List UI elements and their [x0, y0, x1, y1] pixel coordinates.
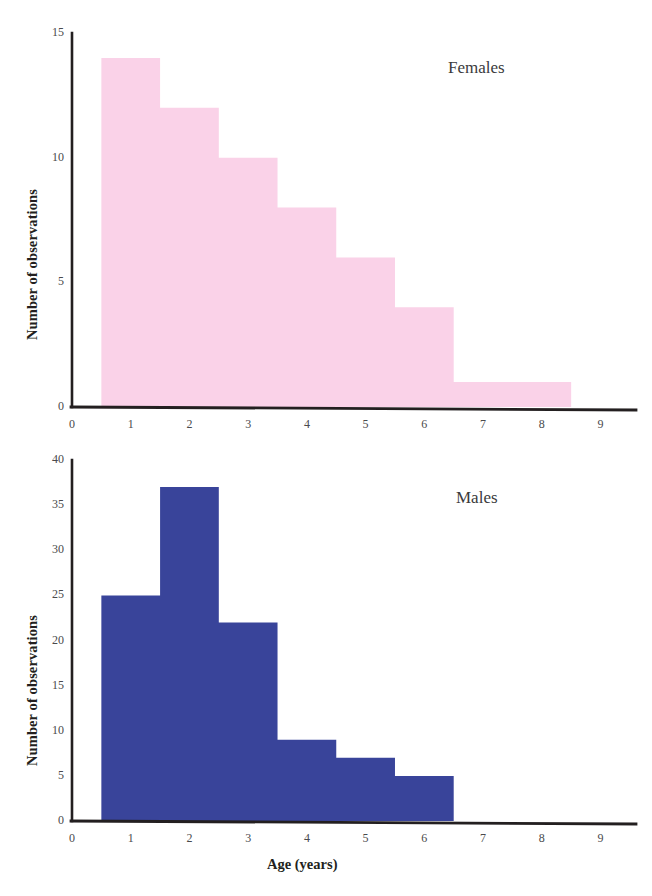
x-axis-line [71, 407, 636, 410]
y-tick-label: 20 [26, 633, 64, 648]
males-histogram-plot [0, 448, 652, 896]
x-tick-label: 7 [468, 417, 498, 432]
histogram-bars [101, 58, 571, 407]
y-tick-label: 35 [26, 497, 64, 512]
chart-panel-males: Number of observations Males Age (years)… [0, 448, 652, 896]
y-tick-label: 15 [26, 25, 64, 40]
y-tick-label: 15 [26, 678, 64, 693]
x-tick-label: 8 [527, 831, 557, 846]
x-tick-label: 0 [57, 417, 87, 432]
x-tick-label: 1 [116, 831, 146, 846]
x-tick-label: 9 [586, 831, 616, 846]
y-tick-label: 30 [26, 542, 64, 557]
females-histogram-plot [0, 0, 652, 448]
panel-annotation-males: Males [456, 488, 498, 508]
x-tick-label: 5 [351, 831, 381, 846]
histogram-bars [101, 487, 453, 821]
x-tick-label: 6 [409, 831, 439, 846]
x-tick-label: 2 [174, 831, 204, 846]
panel-annotation-females: Females [448, 58, 505, 78]
y-tick-label: 5 [26, 768, 64, 783]
x-tick-label: 4 [292, 417, 322, 432]
x-tick-label: 8 [527, 417, 557, 432]
x-tick-label: 5 [351, 417, 381, 432]
x-axis-title: Age (years) [267, 856, 337, 873]
y-tick-label: 10 [26, 150, 64, 165]
y-tick-label: 5 [26, 274, 64, 289]
y-axis-title-females: Number of observations [24, 189, 41, 340]
y-tick-label: 0 [26, 813, 64, 828]
x-tick-label: 6 [409, 417, 439, 432]
x-axis-line [71, 821, 636, 824]
x-tick-label: 2 [174, 417, 204, 432]
x-tick-label: 3 [233, 417, 263, 432]
x-tick-label: 1 [116, 417, 146, 432]
y-tick-label: 25 [26, 587, 64, 602]
chart-panel-females: Number of observations Females 051015012… [0, 0, 652, 448]
y-tick-label: 10 [26, 723, 64, 738]
x-tick-label: 3 [233, 831, 263, 846]
x-tick-label: 7 [468, 831, 498, 846]
x-tick-label: 9 [586, 417, 616, 432]
y-tick-label: 40 [26, 452, 64, 467]
x-tick-label: 4 [292, 831, 322, 846]
y-tick-label: 0 [26, 399, 64, 414]
x-tick-label: 0 [57, 831, 87, 846]
